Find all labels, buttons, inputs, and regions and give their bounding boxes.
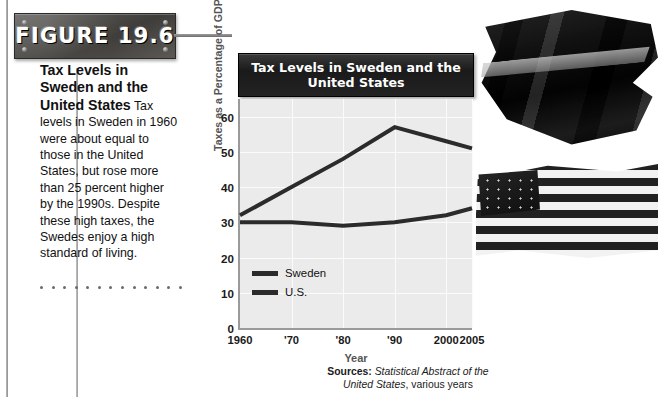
x-axis-tick-label: '90: [387, 334, 402, 346]
x-axis-title: Year: [240, 352, 472, 364]
swedish-flag-image: [478, 10, 658, 150]
legend-swatch-icon: [252, 290, 278, 295]
x-axis-tick-label: '80: [336, 334, 351, 346]
united-states-flag-canton: [476, 170, 540, 216]
chart-plot-area: Taxes as a Percentage of GDP Year 010203…: [238, 99, 472, 330]
legend-swatch-icon: [252, 271, 278, 276]
x-axis-tick-label: 2005: [460, 334, 485, 346]
y-axis-tick-label: 30: [221, 216, 234, 229]
chart-legend: Sweden U.S.: [252, 267, 326, 305]
y-axis-tick-label: 50: [221, 145, 234, 158]
y-axis-tick-label: 40: [221, 181, 234, 194]
sources-title: Statistical Abstract of the: [375, 366, 489, 377]
gridline: [472, 99, 473, 328]
x-axis-tick-label: 1960: [228, 334, 253, 346]
sources-prefix: Sources:: [327, 366, 371, 377]
legend-label-sweden: Sweden: [285, 267, 326, 279]
chart-title-bar: Tax Levels in Sweden and the United Stat…: [238, 53, 474, 97]
rivet-icon: [163, 47, 168, 52]
caption-dot-divider: [40, 286, 182, 289]
left-margin-rule: [6, 0, 8, 397]
rivet-icon: [22, 47, 27, 52]
chart-title: Tax Levels in Sweden and the United Stat…: [239, 60, 473, 90]
caption-body: Tax levels in Sweden in 1960 were about …: [40, 99, 177, 261]
sources-note: Sources: Statistical Abstract of the Uni…: [258, 366, 558, 391]
y-axis-title: Taxes as a Percentage of GDP: [212, 0, 224, 151]
x-axis-tick-label: 2000: [434, 334, 459, 346]
legend-item-sweden: Sweden: [252, 267, 326, 279]
legend-item-us: U.S.: [252, 286, 326, 298]
sources-suffix: , various years: [405, 379, 473, 390]
sources-title-cont: United States: [343, 379, 405, 390]
y-axis-tick-label: 10: [221, 286, 234, 299]
y-axis-tick-label: 0: [228, 322, 234, 335]
flags-photograph: [476, 2, 658, 258]
x-axis-tick-label: '70: [284, 334, 299, 346]
series-line-us: [240, 208, 472, 226]
legend-label-us: U.S.: [285, 286, 307, 298]
series-line-sweden: [240, 127, 472, 215]
figure-caption: Tax Levels in Sweden and the United Stat…: [40, 62, 180, 262]
figure-number-label: FIGURE 19.6: [15, 24, 174, 48]
figure-number-plaque: FIGURE 19.6: [14, 13, 176, 59]
y-axis-tick-label: 60: [221, 110, 234, 123]
y-axis-tick-label: 20: [221, 251, 234, 264]
